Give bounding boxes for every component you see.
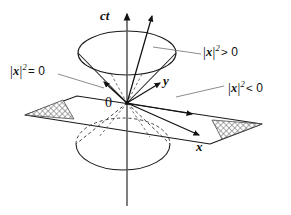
region-label-timelike: |x|2> 0 bbox=[203, 44, 238, 59]
axis-label-x: x bbox=[196, 140, 203, 153]
relation-operator: > bbox=[220, 46, 228, 58]
relation-value: 0 bbox=[256, 81, 263, 95]
relation-operator: = bbox=[27, 65, 35, 77]
region-label-spacelike: |x|2< 0 bbox=[228, 80, 263, 95]
leader-spacelike bbox=[176, 86, 224, 97]
norm-bar-open: | bbox=[228, 81, 231, 96]
origin-label: 0 bbox=[105, 96, 112, 110]
leader-timelike bbox=[153, 47, 201, 54]
region-label-lightlike: |x|2= 0 bbox=[10, 63, 45, 78]
norm-bar-open: | bbox=[10, 64, 13, 79]
origin-point bbox=[125, 101, 129, 105]
norm-bar-open: | bbox=[203, 45, 206, 60]
axis-label-y: y bbox=[163, 74, 169, 87]
axis-label-ct: ct bbox=[100, 9, 109, 22]
leader-lightlike bbox=[58, 74, 104, 88]
lightcone-figure: ct y x 0 |x|2> 0 |x|2= 0 |x|2< 0 bbox=[0, 0, 291, 215]
relation-value: 0 bbox=[38, 64, 45, 78]
relation-value: 0 bbox=[231, 45, 238, 59]
relation-operator: < bbox=[245, 82, 253, 94]
lightcone-drawing bbox=[0, 0, 291, 215]
